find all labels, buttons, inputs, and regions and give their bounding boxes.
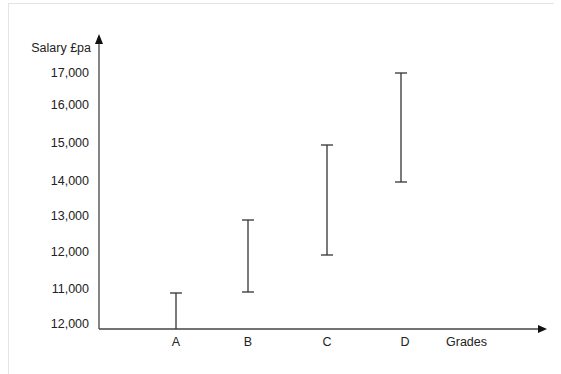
range-bar-b [242, 220, 254, 292]
y-tick-label: 12,000 [51, 317, 89, 331]
range-bar-a [170, 293, 182, 329]
y-tick-labels: 17,00016,00015,00014,00013,00012,00011,0… [51, 66, 89, 331]
x-tick-label-a: A [172, 335, 181, 349]
y-tick-label: 14,000 [51, 174, 89, 188]
y-tick-label: 16,000 [51, 98, 89, 112]
y-tick-label: 12,000 [51, 245, 89, 259]
range-bar-c [321, 145, 333, 255]
y-axis-arrow-icon [95, 34, 103, 44]
x-tick-label-b: B [244, 335, 252, 349]
x-tick-labels: ABCD [172, 335, 410, 349]
range-bar-d [395, 73, 407, 182]
y-tick-label: 13,000 [51, 209, 89, 223]
x-axis-title: Grades [446, 335, 487, 349]
x-tick-label-c: C [322, 335, 331, 349]
y-axis-title: Salary £pa [31, 41, 91, 55]
y-tick-label: 17,000 [51, 66, 89, 80]
range-bars [170, 73, 407, 329]
y-tick-label: 11,000 [52, 282, 89, 296]
x-axis-arrow-icon [538, 325, 547, 333]
x-tick-label-d: D [400, 335, 409, 349]
y-tick-label: 15,000 [51, 136, 89, 150]
